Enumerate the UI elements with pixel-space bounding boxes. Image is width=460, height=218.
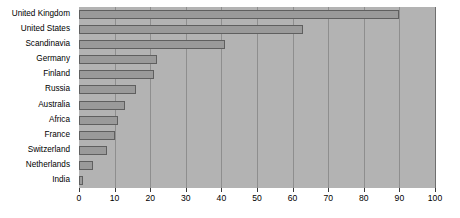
bar: [79, 146, 107, 155]
bar: [79, 161, 93, 170]
axis-tick-label: 10: [100, 194, 130, 203]
axis-tick-mark: [79, 188, 80, 192]
axis-tick-label: 60: [278, 194, 308, 203]
bar-chart: United KingdomUnited StatesScandinaviaGe…: [0, 0, 460, 218]
category-axis-labels: United KingdomUnited StatesScandinaviaGe…: [0, 7, 73, 188]
bar-row: [79, 7, 435, 22]
category-label: Netherlands: [0, 161, 70, 169]
axis-tick-mark: [150, 188, 151, 192]
bar: [79, 85, 136, 94]
axis-tick-mark: [257, 188, 258, 192]
category-label: Russia: [0, 85, 70, 93]
bar-row: [79, 98, 435, 113]
category-label: France: [0, 131, 70, 139]
bar-row: [79, 143, 435, 158]
bar: [79, 25, 303, 34]
category-label: Scandinavia: [0, 40, 70, 48]
axis-tick-label: 30: [171, 194, 201, 203]
axis-tick-label: 0: [64, 194, 94, 203]
bar-row: [79, 173, 435, 188]
axis-tick-mark: [399, 188, 400, 192]
bar: [79, 70, 154, 79]
bar-row: [79, 22, 435, 37]
bar: [79, 55, 157, 64]
plot-area: [79, 7, 436, 188]
category-label: Switzerland: [0, 146, 70, 154]
bar-row: [79, 113, 435, 128]
axis-tick-mark: [115, 188, 116, 192]
bar: [79, 131, 115, 140]
bar-row: [79, 82, 435, 97]
axis-tick-mark: [435, 188, 436, 192]
axis-tick-mark: [293, 188, 294, 192]
category-label: Finland: [0, 70, 70, 78]
axis-tick-mark: [186, 188, 187, 192]
bar: [79, 10, 399, 19]
axis-tick-label: 50: [242, 194, 272, 203]
bar: [79, 101, 125, 110]
axis-tick-label: 40: [206, 194, 236, 203]
axis-tick-label: 80: [349, 194, 379, 203]
axis-tick-label: 20: [135, 194, 165, 203]
axis-tick-mark: [364, 188, 365, 192]
category-label: Australia: [0, 101, 70, 109]
category-label: India: [0, 176, 70, 184]
category-label: Germany: [0, 55, 70, 63]
bar-row: [79, 158, 435, 173]
axis-tick-mark: [221, 188, 222, 192]
value-axis: 0102030405060708090100: [79, 188, 436, 218]
category-label: United Kingdom: [0, 10, 70, 18]
category-label: Africa: [0, 116, 70, 124]
bar-row: [79, 67, 435, 82]
bar: [79, 176, 83, 185]
category-label: United States: [0, 25, 70, 33]
bar-row: [79, 128, 435, 143]
axis-tick-mark: [328, 188, 329, 192]
bar: [79, 40, 225, 49]
bar-row: [79, 37, 435, 52]
axis-tick-label: 90: [384, 194, 414, 203]
bar-row: [79, 52, 435, 67]
axis-tick-label: 100: [420, 194, 450, 203]
bar: [79, 116, 118, 125]
axis-tick-label: 70: [313, 194, 343, 203]
